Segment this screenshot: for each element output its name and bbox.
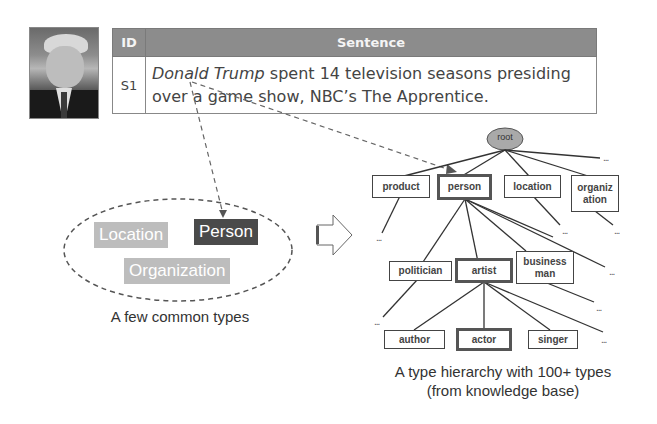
ellipsis: ... [374,316,379,327]
ellipsis: ... [596,302,601,313]
hierarchy-caption: A type hierarchy with 100+ types (from k… [378,362,628,400]
ellipsis: ... [601,334,606,345]
node-actor: actor [456,328,512,351]
node-business-man: business man [516,251,574,284]
arrow-right-icon [316,215,352,255]
node-root: root [490,132,520,142]
ellipsis: ... [603,152,608,163]
ellipsis: ... [376,232,381,243]
node-product: product [372,175,430,198]
node-artist: artist [455,258,513,283]
node-politician: politician [389,261,452,281]
node-singer: singer [528,330,578,349]
ellipsis: ... [609,266,614,277]
tag-person: Person [194,219,258,245]
node-person: person [437,174,492,200]
common-types-caption: A few common types [100,308,260,325]
ellipsis: ... [562,225,567,236]
node-location: location [504,175,561,198]
ellipsis: ... [614,225,619,236]
node-organization: organiz ation [571,175,619,212]
node-author: author [384,330,445,349]
tag-organization: Organization [124,258,230,284]
tag-location: Location [94,222,168,248]
diagram-lines [0,0,657,424]
